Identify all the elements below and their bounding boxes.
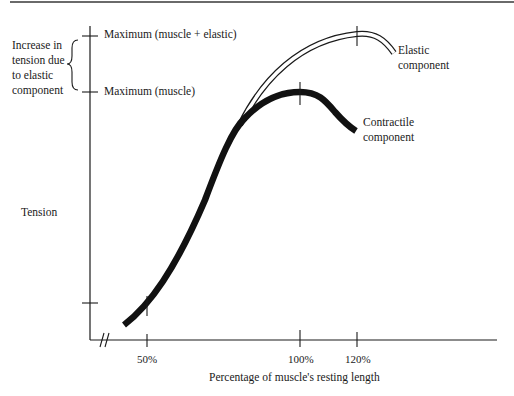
x-tick-label-100: 100%	[288, 352, 314, 367]
x-tick-label-50: 50%	[137, 352, 157, 367]
bracket-annotation: Increase in tension due to elastic compo…	[12, 38, 65, 98]
elastic-component-curve	[240, 26, 394, 125]
x-axis-label: Percentage of muscle's resting length	[209, 370, 380, 385]
y-axis-label: Tension	[21, 205, 57, 220]
x-tick-label-120: 120%	[345, 352, 371, 367]
elastic-component-label: Elastic component	[398, 43, 449, 73]
max-total-label: Maximum (muscle + elastic)	[104, 27, 237, 42]
contractile-component-label: Contractile component	[363, 115, 414, 145]
max-muscle-label: Maximum (muscle)	[104, 84, 195, 99]
bracket-icon	[67, 40, 78, 90]
